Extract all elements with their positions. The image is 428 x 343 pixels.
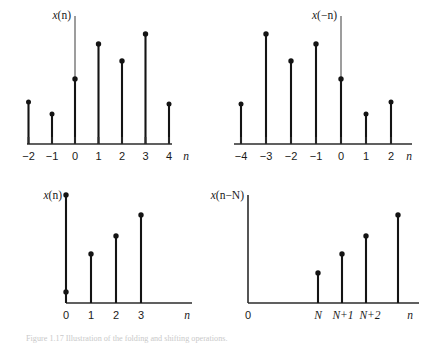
panel-bottom-right: 0 N N+1 N+2 n x(n−N) <box>214 175 428 325</box>
stem-group <box>315 212 400 303</box>
stem-dot-n-2 <box>113 233 118 238</box>
stem-group <box>26 31 172 144</box>
x-axis-label: n <box>183 150 189 162</box>
signal-label: x(n) <box>42 189 62 202</box>
stem-dot-n-minus1 <box>50 112 55 117</box>
tick-label: −4 <box>235 150 248 162</box>
stem-dot-n-0-lower <box>63 289 68 294</box>
tick-label: −1 <box>46 150 59 162</box>
signal-label: x(n) <box>51 9 71 22</box>
stem-group <box>239 31 394 144</box>
stem-dot-n-0 <box>63 192 68 197</box>
tick-label: −2 <box>285 150 298 162</box>
tick-label: 2 <box>388 150 394 162</box>
stem-dot-n-3 <box>143 31 148 36</box>
signal-label: x(−n) <box>311 9 337 22</box>
tick-label: N <box>313 309 323 321</box>
plot-top-left: −2 −1 0 1 2 3 4 n x(n) <box>0 0 214 175</box>
stem-dot-n-minus2 <box>26 100 31 105</box>
stem-dot-n-2 <box>389 100 394 105</box>
stem-dot-n-0 <box>338 76 343 81</box>
signal-label-arg: (−n) <box>317 9 337 22</box>
tick-label-group: −2 −1 0 1 2 3 4 <box>22 150 172 162</box>
stem-group <box>63 192 143 303</box>
stem-dot-N-plus-1 <box>339 251 344 256</box>
tick-label: 0 <box>338 150 344 162</box>
figure-caption: Figure 1.17 Illustration of the folding … <box>26 334 416 343</box>
plot-bottom-left: 0 1 2 3 n x(n) <box>0 175 214 325</box>
tick-label: −3 <box>260 150 273 162</box>
tick-label: 1 <box>363 150 369 162</box>
x-axis-label: n <box>184 309 190 321</box>
tick-label: 0 <box>63 309 69 321</box>
x-axis-label: n <box>406 150 412 162</box>
tick-label: 2 <box>113 309 119 321</box>
stem-dot-n-minus4 <box>239 102 244 107</box>
tick-label: 2 <box>119 150 125 162</box>
stem-dot-N <box>315 270 320 275</box>
tick-label-group: 0 N N+1 N+2 n <box>245 309 413 321</box>
tick-label: 3 <box>142 150 148 162</box>
tick-label: N+2 <box>358 309 380 321</box>
tick-label: 3 <box>138 309 144 321</box>
stem-dot-n-0 <box>72 76 77 81</box>
stem-dot-n-2 <box>119 58 124 63</box>
stem-dot-N-plus-2 <box>363 233 368 238</box>
stem-dot-n-3 <box>138 212 143 217</box>
tick-label: −1 <box>310 150 323 162</box>
stem-dot-n-minus1 <box>313 41 318 46</box>
plot-top-right: −4 −3 −2 −1 0 1 2 n x(−n) <box>214 0 428 175</box>
panel-top-left: −2 −1 0 1 2 3 4 n x(n) <box>0 0 214 175</box>
tick-group <box>29 137 170 144</box>
stem-dot-n-1 <box>96 41 101 46</box>
stem-dot-n <box>395 212 400 217</box>
panel-bottom-left: 0 1 2 3 n x(n) <box>0 175 214 325</box>
stem-dot-n-4 <box>167 102 172 107</box>
tick-label: −2 <box>22 150 35 162</box>
plot-bottom-right: 0 N N+1 N+2 n x(n−N) <box>214 175 428 325</box>
stem-dot-n-minus2 <box>288 58 293 63</box>
signal-label-arg: (n) <box>49 189 63 202</box>
tick-label: 0 <box>72 150 78 162</box>
stem-dot-n-minus3 <box>263 31 268 36</box>
tick-label: N+1 <box>331 309 353 321</box>
x-axis-label: n <box>407 309 413 321</box>
figure-stem-plots: −2 −1 0 1 2 3 4 n x(n) <box>0 0 428 343</box>
tick-label-origin: 0 <box>245 309 251 321</box>
tick-label: 1 <box>88 309 94 321</box>
stem-dot-n-1 <box>88 251 93 256</box>
panel-top-right: −4 −3 −2 −1 0 1 2 n x(−n) <box>214 0 428 175</box>
tick-label: 4 <box>166 150 172 162</box>
signal-label-arg: (n−N) <box>216 189 244 202</box>
tick-label-group: −4 −3 −2 −1 0 1 2 <box>235 150 394 162</box>
tick-group <box>241 137 391 144</box>
tick-label-group: 0 1 2 3 <box>63 309 144 321</box>
signal-label: x(n−N) <box>210 189 244 202</box>
tick-label: 1 <box>95 150 101 162</box>
stem-dot-n-1 <box>364 112 369 117</box>
signal-label-arg: (n) <box>58 9 72 22</box>
